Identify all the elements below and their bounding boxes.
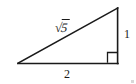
base-leg-label: 2 [64, 68, 70, 80]
vertical-leg-label: 1 [124, 28, 130, 40]
hypotenuse-line [18, 8, 118, 63]
right-triangle-figure: √5 1 2 [0, 0, 136, 84]
hypotenuse-label: √5 [55, 19, 69, 34]
right-angle-marker-icon [108, 53, 118, 63]
radical-group: √5 [54, 19, 69, 34]
corner-artifact [131, 80, 134, 83]
radicand-value: 5 [60, 19, 69, 34]
